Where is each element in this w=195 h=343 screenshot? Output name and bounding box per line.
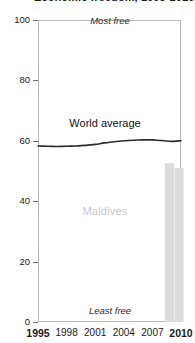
- x-axis: 199519982001200420072010: [0, 322, 195, 343]
- x-tick-label: 2007: [141, 327, 163, 338]
- y-tick-label: 20: [19, 257, 30, 267]
- x-tick-label: 2001: [84, 327, 106, 338]
- y-tick-label: 60: [19, 136, 30, 146]
- x-tick-label: 1995: [26, 327, 49, 339]
- country-watermark-label: Maldives: [82, 205, 127, 217]
- y-tick-mark: [33, 141, 38, 142]
- y-tick-mark: [33, 201, 38, 202]
- y-tick-label: 100: [14, 15, 30, 25]
- y-tick-label: 80: [19, 75, 30, 85]
- x-tick-label: 2010: [169, 327, 192, 339]
- x-tick-label: 1998: [55, 327, 77, 338]
- series-label-world-average: World average: [69, 117, 140, 129]
- y-tick-mark: [33, 262, 38, 263]
- annotation-least-free: Least free: [89, 305, 131, 316]
- chart-title: Economic freedom, 1995-2010: [34, 0, 194, 3]
- y-axis: 100806040200: [0, 0, 38, 343]
- annotation-most-free: Most free: [90, 15, 130, 26]
- x-tick-label: 2004: [113, 327, 135, 338]
- economic-freedom-chart: Economic freedom, 1995-2010 100806040200…: [0, 0, 195, 343]
- y-tick-mark: [33, 80, 38, 81]
- y-tick-label: 40: [19, 196, 30, 206]
- y-tick-mark: [33, 20, 38, 21]
- plot-area: [38, 20, 181, 322]
